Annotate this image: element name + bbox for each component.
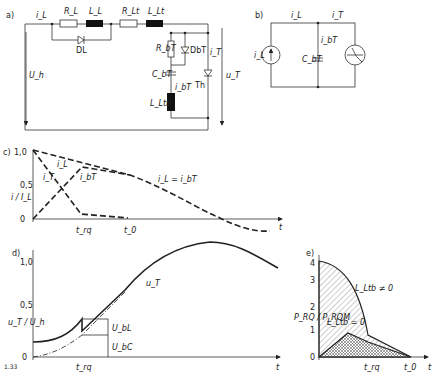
svg-text:t_rq: t_rq (76, 226, 92, 235)
svg-text:u_T / U_h: u_T / U_h (8, 318, 45, 327)
svg-text:L_Ltb: L_Ltb (150, 99, 171, 108)
svg-text:t: t (428, 363, 432, 372)
svg-text:L_Ltb ≠ 0: L_Ltb ≠ 0 (355, 284, 393, 293)
svg-text:0: 0 (22, 353, 27, 362)
thyristor-icon (204, 70, 212, 76)
svg-text:e): e) (306, 249, 314, 258)
svg-text:i_bT: i_bT (80, 173, 97, 182)
inductor-ll (86, 20, 103, 27)
svg-text:DbT: DbT (190, 46, 206, 55)
svg-text:0: 0 (20, 215, 25, 224)
svg-text:1,0: 1,0 (14, 148, 27, 157)
svg-text:t_0: t_0 (124, 226, 136, 235)
svg-text:d): d) (12, 249, 20, 258)
svg-text:t_rq: t_rq (76, 363, 92, 372)
diode-dbt-icon (181, 47, 189, 53)
svg-text:b): b) (255, 11, 263, 20)
svg-text:t: t (276, 363, 280, 372)
svg-text:i / I_L: i / I_L (11, 193, 32, 202)
svg-text:i_L = i_bT: i_L = i_bT (158, 175, 198, 184)
panel-a-label: a) (6, 11, 14, 20)
panel-a-circuit: a) i_L R_L L_L R_Lt (6, 7, 241, 130)
svg-text:i_T: i_T (43, 173, 55, 182)
svg-text:U_bL: U_bL (112, 324, 131, 333)
svg-text:1: 1 (310, 326, 315, 335)
svg-text:U_bC: U_bC (112, 343, 133, 352)
svg-text:i_L: i_L (36, 11, 47, 20)
svg-text:R_Lt: R_Lt (122, 7, 140, 16)
svg-text:L_Ltb = 0: L_Ltb = 0 (327, 318, 365, 327)
panel-b-equivalent: b) i_L i_T i_bT C_bT i_L (254, 11, 365, 88)
svg-text:1.33: 1.33 (4, 363, 18, 370)
svg-text:u_T: u_T (146, 279, 161, 288)
svg-text:i_T: i_T (210, 48, 222, 57)
svg-text:L_L: L_L (89, 7, 102, 16)
svg-text:i_L: i_L (291, 11, 302, 20)
svg-text:i_L: i_L (254, 51, 265, 60)
svg-text:u_T: u_T (226, 71, 241, 80)
svg-text:1,0: 1,0 (20, 258, 33, 267)
svg-text:t_rq: t_rq (364, 363, 380, 372)
svg-text:C_bT: C_bT (152, 70, 173, 79)
inductor-llt (146, 20, 163, 27)
figure-canvas: a) i_L R_L L_L R_Lt (0, 0, 442, 381)
panel-c-chart: c) 1,0 0,5 0 i / I_L t_rq t_0 t i_L i_T … (3, 148, 283, 235)
svg-text:4: 4 (310, 259, 315, 268)
svg-text:i_bT: i_bT (321, 36, 338, 45)
svg-text:3: 3 (310, 276, 315, 285)
panel-d-chart: d) 1,0 0,5 0 u_T / U_h t_rq t U_bL U_bC … (4, 242, 280, 372)
svg-text:U_h: U_h (29, 71, 44, 80)
svg-text:DL: DL (76, 46, 87, 55)
curve-it (33, 150, 128, 218)
svg-text:t: t (279, 223, 283, 232)
svg-text:L_Lt: L_Lt (148, 7, 165, 16)
resistor-rl (60, 20, 77, 27)
panel-e-chart: e) 4 3 2 1 0 P_RQ / P_RQM t_rq t_0 t L_L… (294, 249, 432, 372)
svg-text:C_bT: C_bT (302, 55, 323, 64)
svg-text:R_bT: R_bT (156, 44, 177, 53)
svg-text:Th: Th (194, 81, 205, 90)
svg-text:i_bT: i_bT (175, 83, 192, 92)
svg-text:t_0: t_0 (404, 363, 416, 372)
resistor-rlt (120, 20, 137, 27)
curve-ut (33, 242, 278, 342)
svg-text:2: 2 (310, 303, 315, 312)
svg-text:0: 0 (310, 353, 315, 362)
svg-text:c): c) (3, 148, 11, 157)
svg-text:0,5: 0,5 (20, 301, 33, 310)
svg-text:i_L: i_L (57, 160, 68, 169)
svg-text:0,5: 0,5 (20, 181, 33, 190)
svg-text:R_L: R_L (64, 7, 78, 16)
svg-text:i_T: i_T (332, 11, 344, 20)
diode-dl-icon (78, 36, 84, 44)
